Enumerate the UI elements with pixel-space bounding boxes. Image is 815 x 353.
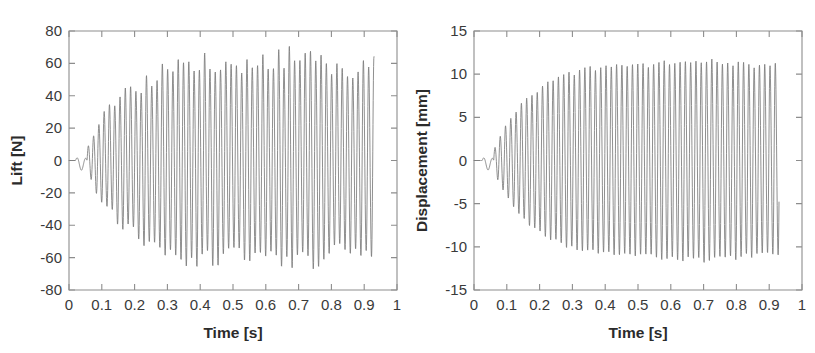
y-tick-label: 0 [54,152,62,169]
lift-y-ticks [69,31,397,290]
x-tick-label: 0.2 [529,296,550,313]
lift-plot-area: 00.10.20.30.40.50.60.70.80.91 806040200-… [40,22,401,313]
x-tick-label: 0.8 [726,296,747,313]
lift-y-axis-title: Lift [N] [8,136,25,186]
y-tick-label: 80 [45,22,62,39]
x-tick-label: 0.5 [628,296,649,313]
x-tick-label: 1 [798,296,806,313]
x-tick-label: 0.4 [595,296,616,313]
displacement-y-axis-title: Displacement [mm] [413,89,430,232]
y-tick-label: -20 [40,184,62,201]
panel-displacement: 00.10.20.30.40.50.60.70.80.91 151050-5-1… [407,0,814,353]
y-tick-label: -5 [454,195,467,212]
x-tick-label: 0.5 [223,296,244,313]
y-tick-label: 40 [45,87,62,104]
x-tick-label: 0.2 [124,296,145,313]
x-tick-label: 0.3 [157,296,178,313]
displacement-plot-area: 00.10.20.30.40.50.60.70.80.91 151050-5-1… [445,22,806,313]
figure-container: 00.10.20.30.40.50.60.70.80.91 806040200-… [0,0,815,353]
displacement-chart-svg: 00.10.20.30.40.50.60.70.80.91 151050-5-1… [407,0,814,353]
lift-axes-box [69,31,397,290]
x-tick-label: 0.4 [190,296,211,313]
x-tick-label: 0 [65,296,73,313]
displacement-x-ticklabels: 00.10.20.30.40.50.60.70.80.91 [470,296,806,313]
x-tick-label: 0.9 [759,296,780,313]
x-tick-label: 0.6 [255,296,276,313]
lift-series-line [69,46,374,268]
y-tick-label: 10 [450,65,467,82]
lift-chart-svg: 00.10.20.30.40.50.60.70.80.91 806040200-… [0,0,407,353]
y-tick-label: -40 [40,216,62,233]
x-tick-label: 0.1 [91,296,112,313]
displacement-y-ticklabels: 151050-5-10-15 [445,22,467,298]
y-tick-label: 0 [459,152,467,169]
lift-x-axis-title: Time [s] [203,324,262,341]
x-tick-label: 0.9 [354,296,375,313]
x-tick-label: 1 [393,296,401,313]
lift-x-ticklabels: 00.10.20.30.40.50.60.70.80.91 [65,296,401,313]
x-tick-label: 0 [470,296,478,313]
lift-x-ticks [69,31,397,290]
displacement-x-axis-title: Time [s] [608,324,667,341]
y-tick-label: -80 [40,281,62,298]
y-tick-label: 20 [45,119,62,136]
panel-lift: 00.10.20.30.40.50.60.70.80.91 806040200-… [0,0,407,353]
y-tick-label: -15 [445,281,467,298]
x-tick-label: 0.6 [660,296,681,313]
x-tick-label: 0.8 [321,296,342,313]
x-tick-label: 0.7 [693,296,714,313]
x-tick-label: 0.7 [288,296,309,313]
displacement-series-line [474,59,779,262]
y-tick-label: -10 [445,238,467,255]
lift-y-ticklabels: 806040200-20-40-60-80 [40,22,62,298]
y-tick-label: 5 [459,108,467,125]
y-tick-label: 60 [45,54,62,71]
y-tick-label: -60 [40,249,62,266]
x-tick-label: 0.3 [562,296,583,313]
x-tick-label: 0.1 [496,296,517,313]
y-tick-label: 15 [450,22,467,39]
